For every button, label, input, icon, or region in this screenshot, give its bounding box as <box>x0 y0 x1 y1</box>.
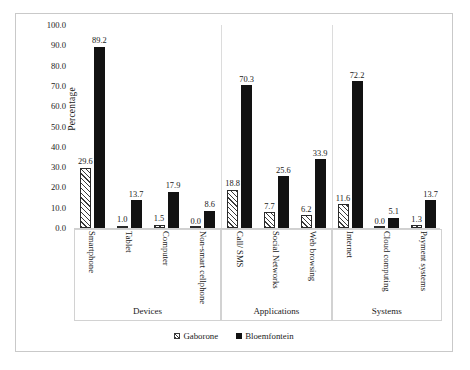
y-tick-label: 60.0 <box>51 101 66 111</box>
bar-bloemfontein-3 <box>204 211 215 228</box>
bar-bloemfontein-2 <box>168 192 179 228</box>
bar-value-label: 25.6 <box>266 166 300 175</box>
legend-swatch-gaborone <box>174 333 180 339</box>
bar-value-label: 13.7 <box>414 190 448 199</box>
bar-bloemfontein-4 <box>241 85 252 228</box>
y-tick-label: 100.0 <box>47 20 66 30</box>
y-tick-label: 10.0 <box>51 203 66 213</box>
legend-label: Bloemfontein <box>245 331 293 341</box>
y-tick-label: 90.0 <box>51 40 66 50</box>
y-tick-label: 0.0 <box>55 223 66 233</box>
group-separator <box>221 25 222 239</box>
bar-bloemfontein-8 <box>388 218 399 228</box>
bar-gaborone-0 <box>80 168 91 228</box>
bar-gaborone-6 <box>301 215 312 228</box>
bar-bloemfontein-5 <box>278 176 289 228</box>
group-boxes: DevicesApplicationsSystems <box>74 229 440 321</box>
bar-bloemfontein-1 <box>131 200 142 228</box>
group-name: Devices <box>75 306 220 316</box>
bar-bloemfontein-0 <box>94 47 105 228</box>
chart-legend: GaboroneBloemfontein <box>16 326 452 346</box>
legend-item-bloemfontein[interactable]: Bloemfontein <box>236 331 293 341</box>
group-box-systems: Systems <box>332 229 442 321</box>
plot-area: 29.689.21.013.71.517.90.08.618.870.37.72… <box>74 25 440 228</box>
group-separator <box>332 25 333 239</box>
chart-frame: Percentage 0.010.020.030.040.050.060.070… <box>15 13 453 352</box>
y-tick-label: 20.0 <box>51 182 66 192</box>
bar-value-label: 89.2 <box>82 36 116 45</box>
legend-label: Gaborone <box>183 331 218 341</box>
legend-item-gaborone[interactable]: Gaborone <box>174 331 218 341</box>
group-box-devices: Devices <box>74 229 221 321</box>
group-box-applications: Applications <box>221 229 331 321</box>
bar-gaborone-7 <box>338 204 349 228</box>
bar-gaborone-4 <box>227 190 238 228</box>
group-name: Systems <box>333 306 441 316</box>
y-tick-label: 50.0 <box>51 122 66 132</box>
y-tick-label: 70.0 <box>51 81 66 91</box>
bar-bloemfontein-9 <box>425 200 436 228</box>
bar-value-label: 13.7 <box>119 190 153 199</box>
bar-bloemfontein-7 <box>352 81 363 228</box>
bar-value-label: 17.9 <box>156 181 190 190</box>
y-tick-label: 40.0 <box>51 142 66 152</box>
legend-swatch-bloemfontein <box>236 333 242 339</box>
bar-gaborone-5 <box>264 212 275 228</box>
bar-bloemfontein-6 <box>315 159 326 228</box>
y-tick-label: 30.0 <box>51 162 66 172</box>
y-tick-label: 80.0 <box>51 61 66 71</box>
group-name: Applications <box>222 306 330 316</box>
y-axis-tick-labels: 0.010.020.030.040.050.060.070.080.090.01… <box>16 14 72 351</box>
bar-value-label: 72.2 <box>340 71 374 80</box>
bar-value-label: 70.3 <box>230 75 264 84</box>
